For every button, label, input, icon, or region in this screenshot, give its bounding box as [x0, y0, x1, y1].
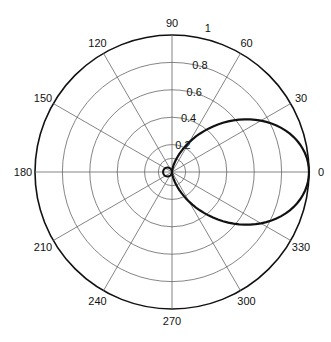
angular-tick-label: 330: [292, 241, 310, 253]
angular-tick-label: 0: [318, 166, 324, 178]
angular-tick-label: 210: [34, 241, 52, 253]
angular-gridline: [172, 172, 241, 291]
angular-gridline: [104, 53, 173, 172]
radial-tick-label: 0.4: [181, 112, 196, 124]
angular-tick-label: 120: [88, 37, 106, 49]
angular-tick-label: 240: [88, 295, 106, 307]
angular-gridline: [53, 172, 172, 241]
polar-chart: 03060901201501802102402703003300.20.40.6…: [0, 0, 331, 342]
angular-gridline: [53, 104, 172, 173]
angular-tick-label: 300: [237, 295, 255, 307]
angular-gridline: [104, 172, 173, 291]
radial-tick-label: 0.8: [192, 59, 207, 71]
angular-tick-label: 150: [34, 92, 52, 104]
angular-gridline: [172, 172, 291, 241]
angular-tick-label: 90: [166, 17, 178, 29]
angular-tick-label: 30: [295, 92, 307, 104]
angular-tick-label: 180: [14, 166, 32, 178]
angular-tick-label: 60: [240, 37, 252, 49]
angular-tick-label: 270: [163, 315, 181, 327]
radial-tick-label: 1: [205, 22, 211, 34]
radial-tick-label: 0.6: [187, 86, 202, 98]
